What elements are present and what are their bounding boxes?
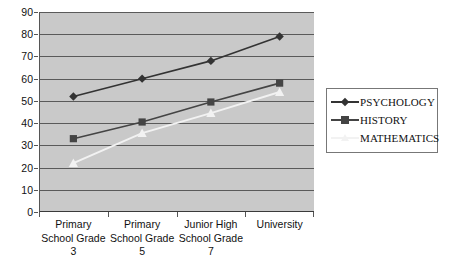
data-point-marker <box>275 87 284 96</box>
data-point-marker <box>207 57 215 65</box>
y-axis-tick-mark <box>34 56 38 57</box>
y-axis-tick-mark <box>34 101 38 102</box>
y-axis-tick-mark <box>34 168 38 169</box>
x-axis-category-label: University <box>237 218 323 232</box>
y-axis-tick-mark <box>34 145 38 146</box>
x-axis-tick-mark <box>39 212 40 217</box>
series-line <box>73 92 279 163</box>
x-axis-category-line: University <box>237 218 323 232</box>
data-point-marker <box>139 118 146 125</box>
data-point-marker <box>275 32 283 40</box>
y-axis-tick-mark <box>34 212 38 213</box>
data-point-marker <box>138 74 146 82</box>
y-axis-tick-mark <box>34 190 38 191</box>
data-point-marker <box>207 98 214 105</box>
legend-key <box>330 112 360 128</box>
x-axis-category-labels: PrimarySchool Grade3PrimarySchool Grade5… <box>24 218 324 268</box>
legend-marker-triangle-icon <box>341 134 349 141</box>
plot-area-wrapper <box>39 12 314 212</box>
legend-key <box>330 130 360 146</box>
y-axis-ticks <box>0 12 39 212</box>
legend-item: HISTORY <box>330 111 434 129</box>
legend-key <box>330 94 360 110</box>
x-axis-tick-mark <box>177 212 178 217</box>
legend-label: HISTORY <box>360 114 408 126</box>
data-point-marker <box>70 135 77 142</box>
y-axis-tick-mark <box>34 123 38 124</box>
chart-legend: PSYCHOLOGYHISTORYMATHEMATICS <box>326 88 438 153</box>
legend-marker-diamond-icon <box>341 98 349 106</box>
y-axis-tick-mark <box>34 34 38 35</box>
y-axis-tick-mark <box>34 79 38 80</box>
legend-label: PSYCHOLOGY <box>360 96 435 108</box>
x-axis-tick-mark <box>245 212 246 217</box>
x-axis-ticks <box>39 212 314 217</box>
x-axis-category-line: School Grade <box>168 232 254 246</box>
legend-item: MATHEMATICS <box>330 129 434 147</box>
x-axis-tick-mark <box>313 212 314 217</box>
y-axis-tick-mark <box>34 12 38 13</box>
data-point-marker <box>276 80 283 87</box>
data-point-marker <box>69 92 77 100</box>
x-axis-tick-mark <box>108 212 109 217</box>
legend-item: PSYCHOLOGY <box>330 93 434 111</box>
series-layer <box>39 12 314 212</box>
line-chart: 0102030405060708090 PrimarySchool Grade3… <box>0 0 452 272</box>
series-line <box>73 36 279 96</box>
series-line <box>73 83 279 139</box>
x-axis-category-line: 7 <box>168 245 254 259</box>
legend-label: MATHEMATICS <box>360 132 439 144</box>
legend-marker-square-icon <box>341 116 349 124</box>
series-mathematics <box>69 87 284 167</box>
